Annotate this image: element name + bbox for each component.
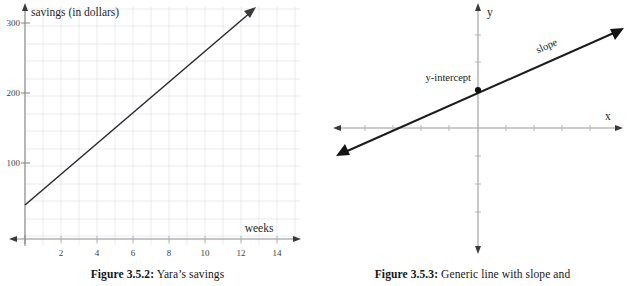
x-axis-label: x xyxy=(605,110,611,122)
generic-line-plot: y x y-intercept slope xyxy=(315,0,630,286)
y-tick-label-300: 300 xyxy=(7,18,21,28)
y-axis-label: savings (in dollars) xyxy=(31,6,119,19)
savings-data-line xyxy=(25,7,256,205)
x-tick-label-2: 2 xyxy=(59,248,64,258)
slope-annotation: slope xyxy=(534,36,559,55)
generic-slope-line xyxy=(336,28,624,156)
y-intercept-annotation: y-intercept xyxy=(426,72,472,83)
x-tick-label-6: 6 xyxy=(131,248,136,258)
x-tick-label-12: 12 xyxy=(237,248,246,258)
grid xyxy=(25,6,300,245)
y-axis xyxy=(21,3,30,244)
figure-caption-text: Generic line with slope and xyxy=(441,268,570,280)
x-axis-label: weeks xyxy=(245,222,274,234)
x-axis xyxy=(9,235,301,246)
figure-caption-text: Yara’s savings xyxy=(157,268,225,280)
figure-caption-label: Figure 3.5.2: xyxy=(91,268,154,280)
yara-savings-plot: 100 200 300 2 4 6 8 10 12 14 savings (in… xyxy=(0,0,315,286)
y-tick-label-200: 200 xyxy=(7,88,21,98)
x-tick-label-4: 4 xyxy=(95,248,100,258)
x-tick-label-8: 8 xyxy=(167,248,172,258)
y-axis-label: y xyxy=(487,6,493,19)
figure-caption-label: Figure 3.5.3: xyxy=(375,268,438,280)
x-tick-label-10: 10 xyxy=(201,248,211,258)
figure-caption-352: Figure 3.5.2: Yara’s savings xyxy=(0,268,315,280)
y-tick-label-100: 100 xyxy=(7,158,21,168)
figure-caption-353: Figure 3.5.3: Generic line with slope an… xyxy=(315,268,630,280)
figure-generic-line: y x y-intercept slope Figure 3.5.3: Gene… xyxy=(315,0,630,286)
y-intercept-marker xyxy=(475,87,481,93)
x-tick-label-14: 14 xyxy=(273,248,283,258)
figure-pair: 100 200 300 2 4 6 8 10 12 14 savings (in… xyxy=(0,0,630,286)
figure-yara-savings: 100 200 300 2 4 6 8 10 12 14 savings (in… xyxy=(0,0,315,286)
